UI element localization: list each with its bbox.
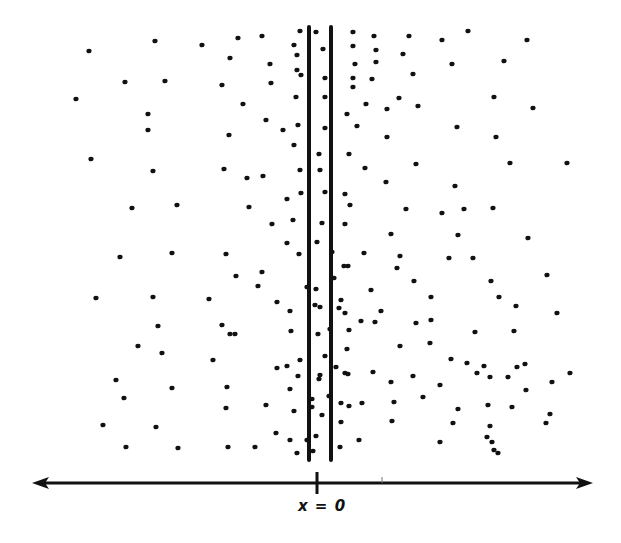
dot [199,43,204,48]
dot [524,38,529,43]
dot [437,383,442,388]
dot [314,240,319,245]
dot [113,378,118,383]
dot [544,273,549,278]
dot [240,102,245,107]
dot [341,264,346,269]
dot [145,112,150,117]
dot [384,135,389,140]
dot [543,421,548,426]
dot [437,440,442,445]
dot [567,371,572,376]
dot [454,125,459,130]
dot [287,387,292,392]
dot [549,380,554,385]
dot [319,413,324,418]
dot [313,287,318,292]
dot [400,52,405,57]
dot [274,300,279,305]
dot [450,421,455,426]
dot [338,401,343,406]
dot [427,341,432,346]
dot [342,192,347,197]
dot [420,395,425,400]
dot [350,44,355,49]
dot [489,440,494,445]
dot [284,197,289,202]
dot [346,152,351,157]
dot [280,128,285,133]
dot [350,85,355,90]
dot [493,135,498,140]
dot [312,303,317,308]
dot [415,104,420,109]
dot [210,358,215,363]
dot [313,434,318,439]
dot [373,48,378,53]
dot [491,95,496,100]
dot [259,270,264,275]
dot [397,344,402,349]
dot [233,274,238,279]
dot [320,47,325,52]
dot [481,364,486,369]
dot [496,295,501,300]
dot [362,166,367,171]
dot [263,118,268,123]
dot [338,298,343,303]
dot [232,332,237,337]
dot [100,423,105,428]
dot [155,324,160,329]
dot [86,49,91,54]
dot [117,255,122,260]
dot [259,34,264,39]
dot [391,400,396,405]
dot [235,36,240,41]
dot [344,112,349,117]
dot [159,351,164,356]
dot [547,412,552,417]
dot [223,252,228,257]
dot [554,311,559,316]
dot [487,375,492,380]
dot [225,445,230,450]
dot [523,388,528,393]
dot [316,152,321,157]
dot [319,221,324,226]
dot [316,377,321,382]
dot [274,366,279,371]
dot [446,256,451,261]
dot [513,304,518,309]
dot [337,445,342,450]
dot [206,297,211,302]
dot [352,62,357,67]
dot [322,126,327,131]
dot [293,95,298,100]
dot [219,83,224,88]
dot [294,451,299,456]
dot [297,29,302,34]
dot [350,30,355,35]
dot [378,309,383,314]
dot [295,123,300,128]
dot [162,79,167,84]
dot [317,305,322,310]
dot [338,420,343,425]
dot [509,405,514,410]
dot [350,76,355,81]
dot [310,449,315,454]
dot [291,143,296,148]
dot [291,43,296,48]
dot [175,446,180,451]
dot [298,191,303,196]
dot [174,203,179,208]
dot [322,190,327,195]
dot [474,371,479,376]
dot [317,373,322,378]
dot [403,207,408,212]
dot [297,168,302,173]
dot [219,323,224,328]
dot [344,347,349,352]
dot [455,233,460,238]
dot [368,288,373,293]
